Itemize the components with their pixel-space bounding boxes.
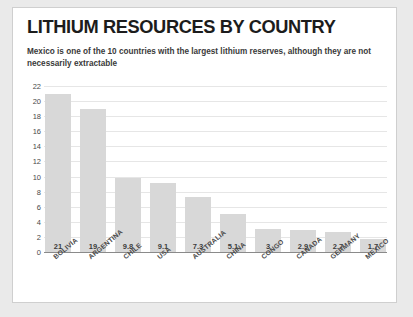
- bar-series: 21199.89.17.35.132.92.71.7: [44, 86, 387, 252]
- y-axis-tick-label: 2: [37, 232, 41, 241]
- y-axis-tick-label: 20: [33, 97, 41, 106]
- bar-column: 5.1: [220, 86, 246, 252]
- y-axis-tick-label: 8: [37, 187, 41, 196]
- y-axis-tick-label: 14: [33, 142, 41, 151]
- bar-column: 2.9: [290, 86, 316, 252]
- bar-column: 3: [255, 86, 281, 252]
- y-axis-tick-label: 10: [33, 172, 41, 181]
- page-background: LITHIUM RESOURCES BY COUNTRY Mexico is o…: [0, 0, 413, 317]
- y-axis-tick-label: 4: [37, 217, 41, 226]
- x-axis-category-labels: BOLIVIAARGENTINACHILEUSAAUSTRALIACHINACO…: [44, 255, 390, 305]
- y-axis-tick-label: 18: [33, 112, 41, 121]
- y-axis-tick-label: 16: [33, 127, 41, 136]
- bar-column: 1.7: [360, 86, 386, 252]
- y-axis-tick-label: 6: [37, 202, 41, 211]
- chart-card: LITHIUM RESOURCES BY COUNTRY Mexico is o…: [12, 7, 397, 303]
- bar-column: 9.1: [150, 86, 176, 252]
- y-axis-tick-label: 22: [33, 82, 41, 91]
- bar[interactable]: 19: [80, 109, 106, 252]
- y-axis-tick-label: 12: [33, 157, 41, 166]
- bar-column: 7.3: [185, 86, 211, 252]
- bar[interactable]: 9.1: [150, 183, 176, 252]
- page-title: LITHIUM RESOURCES BY COUNTRY: [27, 16, 335, 38]
- y-axis-tick-label: 0: [37, 248, 41, 257]
- bar-column: 19: [80, 86, 106, 252]
- y-axis: 2220181614121086420: [27, 86, 43, 253]
- bar[interactable]: 21: [45, 94, 71, 252]
- bar-column: 2.7: [325, 86, 351, 252]
- chart-subtitle: Mexico is one of the 10 countries with t…: [27, 46, 377, 69]
- bar-column: 21: [45, 86, 71, 252]
